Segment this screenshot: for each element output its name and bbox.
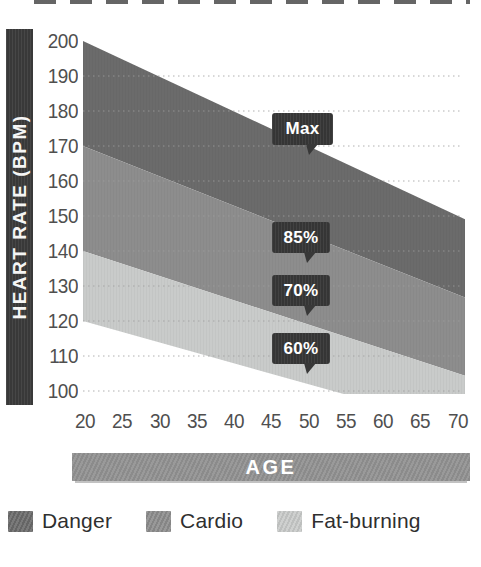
x-tick-label: 20 [70,409,101,433]
legend-item-fat-burning: Fat-burning [277,509,421,533]
y-tick-label: 190 [40,65,78,87]
legend-label: Cardio [180,509,243,533]
legend: DangerCardioFat-burning [8,506,473,536]
legend-label: Fat-burning [311,509,421,533]
y-tick-label: 100 [40,380,78,402]
x-axis-title: AGE [246,456,297,479]
y-tick-label: 110 [40,345,78,367]
y-tick-label: 200 [40,30,78,52]
x-tick-label: 25 [107,409,138,433]
y-tick-label: 130 [40,275,78,297]
x-tick-label: 35 [181,409,212,433]
legend-label: Danger [42,509,112,533]
x-tick-label: 50 [293,409,324,433]
legend-swatch [8,511,33,532]
legend-item-danger: Danger [8,509,112,533]
y-axis-title: HEART RATE (BPM) [9,114,31,319]
y-tick-label: 120 [40,310,78,332]
y-axis-title-bar: HEART RATE (BPM) [6,29,33,405]
y-tick-label: 160 [40,170,78,192]
x-tick-label: 40 [219,409,250,433]
legend-swatch [277,511,302,532]
x-tick-label: 70 [442,409,473,433]
legend-swatch [146,511,171,532]
y-tick-label: 150 [40,205,78,227]
callout-max: Max [272,113,333,145]
x-tick-label: 65 [405,409,436,433]
heart-rate-zone-chart: HEART RATE (BPM) 20019018017016015014013… [0,0,481,567]
callout-60: 60% [272,333,330,364]
cropped-title-fragment [34,0,470,4]
x-tick-label: 55 [330,409,361,433]
x-tick-label: 60 [368,409,399,433]
callout-85: 85% [272,222,330,253]
callout-70: 70% [272,275,330,306]
x-tick-label: 30 [144,409,175,433]
y-tick-label: 140 [40,240,78,262]
x-tick-label: 45 [256,409,287,433]
y-tick-label: 180 [40,100,78,122]
y-tick-label: 170 [40,135,78,157]
x-axis-title-bar: AGE [72,453,470,481]
legend-item-cardio: Cardio [146,509,243,533]
